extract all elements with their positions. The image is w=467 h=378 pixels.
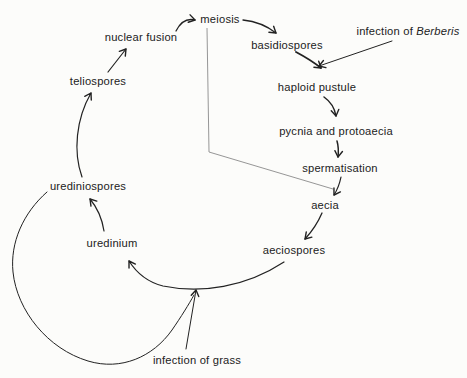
teliospores-to-nuclear-fusion-arrow <box>108 49 126 72</box>
label-nuclear-fusion: nuclear fusion <box>105 31 177 43</box>
label-basidiospores: basidiospores <box>251 39 323 51</box>
aecia-to-aeciospores-arrow <box>305 213 322 239</box>
infection-of-grass-to-cycle-arrow <box>186 290 196 349</box>
label-spermatisation: spermatisation <box>302 162 378 174</box>
label-infection-of-grass: infection of grass <box>153 354 241 366</box>
label-aecia: aecia <box>311 199 339 211</box>
label-aeciospores: aeciospores <box>263 244 326 256</box>
label-urediniospores: urediniospores <box>50 180 126 192</box>
label-pycnia-and-protoaecia: pycnia and protoaecia <box>279 125 393 137</box>
life-cycle-diagram: meiosisnuclear fusionteliosporesuredinio… <box>0 0 467 378</box>
pycnia-to-spermatisation-arrow <box>337 141 338 157</box>
infection-of-berberis-to-haploid-pustule-arrow <box>319 41 392 66</box>
phase-line-vertical <box>207 28 209 152</box>
haploid-pustule-to-pycnia-arrow <box>324 97 336 116</box>
spermatisation-to-aecia-arrow <box>334 177 341 195</box>
nodes-group: meiosisnuclear fusionteliosporesuredinio… <box>50 13 460 366</box>
label-uredinium: uredinium <box>87 237 138 249</box>
basidiospores-to-haploid-pustule-arrow <box>296 52 321 68</box>
label-infection-of-berberis: infection of Berberis <box>356 25 459 37</box>
uredinium-to-urediniospores-arrow <box>90 199 104 231</box>
nuclear-fusion-to-meiosis-arrow <box>176 19 195 31</box>
label-meiosis: meiosis <box>200 13 240 25</box>
aeciospores-to-uredinium-arrow <box>129 261 284 289</box>
urediniospores-to-teliospores-arrow <box>77 93 91 177</box>
uredinial-repeat-loop-arrow <box>13 192 194 364</box>
label-haploid-pustule: haploid pustule <box>278 81 356 93</box>
meiosis-to-basidiospores-arrow <box>243 20 276 33</box>
diagram-page: meiosisnuclear fusionteliosporesuredinio… <box>0 0 467 378</box>
label-teliospores: teliospores <box>70 75 127 87</box>
